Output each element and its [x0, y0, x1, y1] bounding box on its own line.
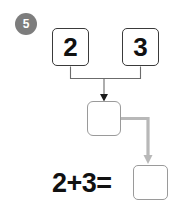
arrow-down-icon: [100, 79, 108, 102]
worksheet-canvas: 5 2 3 2+3=: [0, 0, 181, 208]
step-number-badge: 5: [15, 13, 37, 35]
addend-box-a[interactable]: 2: [52, 28, 89, 66]
addend-box-b[interactable]: 3: [122, 28, 159, 66]
equation-answer-box[interactable]: [133, 165, 168, 200]
elbow-arrow-down-icon: [121, 119, 153, 165]
equation-text: 2+3=: [52, 166, 112, 200]
bracket-connector: [71, 67, 141, 79]
sum-answer-box[interactable]: [87, 101, 121, 136]
